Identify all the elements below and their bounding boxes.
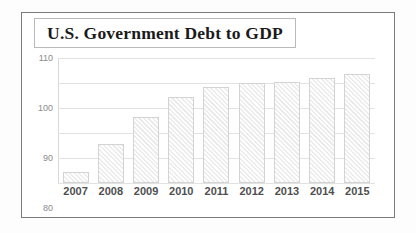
bar[interactable] — [309, 78, 335, 183]
bar[interactable] — [239, 83, 265, 183]
y-axis-tick-label: 100 — [38, 103, 53, 113]
chart-frame: U.S. Government Debt to GDP 607080901001… — [21, 12, 395, 218]
bar[interactable] — [168, 97, 194, 183]
plot-area: 60708090100110 — [58, 58, 375, 183]
gridline: 60 — [58, 183, 375, 184]
bar-slot — [305, 58, 340, 183]
bar-slot — [58, 58, 93, 183]
x-axis-tick-label: 2011 — [199, 185, 234, 197]
x-axis-tick-label: 2014 — [305, 185, 340, 197]
bar[interactable] — [274, 82, 300, 183]
x-axis-tick-labels: 200720082009201020112012201320142015 — [58, 185, 375, 197]
page-title: U.S. Government Debt to GDP — [47, 23, 283, 44]
bar[interactable] — [203, 87, 229, 183]
bar-slot — [164, 58, 199, 183]
bar-slot — [340, 58, 375, 183]
bar-slot — [128, 58, 163, 183]
bar[interactable] — [133, 117, 159, 183]
x-axis-tick-label: 2015 — [340, 185, 375, 197]
bar-slot — [93, 58, 128, 183]
chart-figure: U.S. Government Debt to GDP 607080901001… — [0, 0, 416, 233]
y-axis-tick-label: 80 — [43, 203, 53, 213]
x-axis-tick-label: 2012 — [234, 185, 269, 197]
x-axis-tick-label: 2010 — [164, 185, 199, 197]
bar[interactable] — [98, 144, 124, 183]
x-axis-tick-label: 2008 — [93, 185, 128, 197]
bar[interactable] — [63, 172, 89, 183]
bar-series — [58, 58, 375, 183]
y-axis-tick-label: 110 — [39, 53, 53, 63]
x-axis-tick-label: 2013 — [269, 185, 304, 197]
x-axis-tick-label: 2007 — [58, 185, 93, 197]
bar-slot — [234, 58, 269, 183]
y-axis-tick-label: 90 — [43, 153, 53, 163]
chart-title-box: U.S. Government Debt to GDP — [34, 18, 296, 48]
x-axis-tick-label: 2009 — [128, 185, 163, 197]
bar[interactable] — [344, 74, 370, 183]
bar-slot — [269, 58, 304, 183]
bar-slot — [199, 58, 234, 183]
